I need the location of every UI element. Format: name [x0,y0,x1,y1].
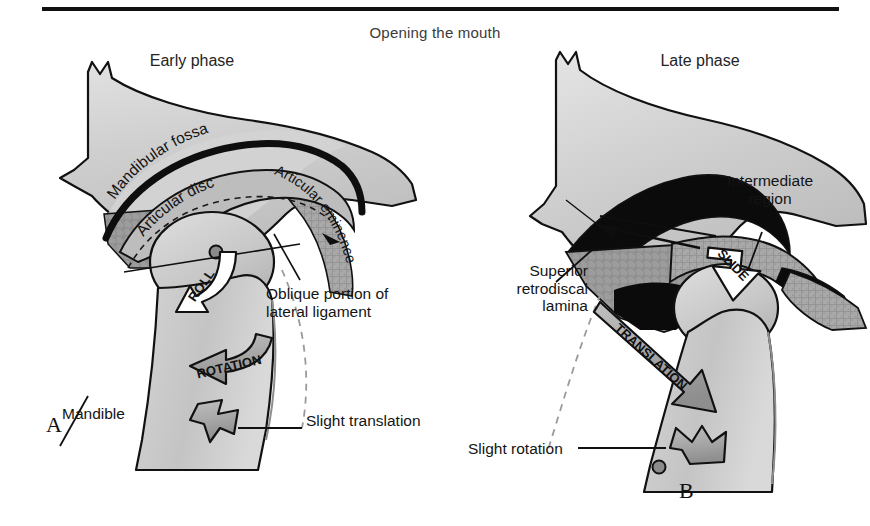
rotation-axis-dot-b [653,461,666,474]
label-mandible: Mandible [62,405,125,423]
figure-canvas: Opening the mouth Early phase Late phase [0,0,870,526]
label-superior-retrodiscal-lamina: Superior retrodiscal lamina [452,262,588,315]
panel-b-letter: B [679,478,694,504]
label-slight-rotation: Slight rotation [468,440,563,458]
label-slight-translation: Slight translation [306,412,421,430]
label-oblique-portion-lateral-ligament: Oblique portion of lateral ligament [266,285,388,320]
leader-oblique-ligament-2 [274,234,300,280]
anatomy-illustration: ROLL ROTATION Mandibular fossa Articular… [0,0,870,526]
label-intermediate-region: Intermediate region [694,172,846,207]
temporal-lower-wing-b [782,272,866,330]
panel-a-letter: A [46,412,62,438]
translation-arrow-label: TRANSLATION [612,320,691,393]
